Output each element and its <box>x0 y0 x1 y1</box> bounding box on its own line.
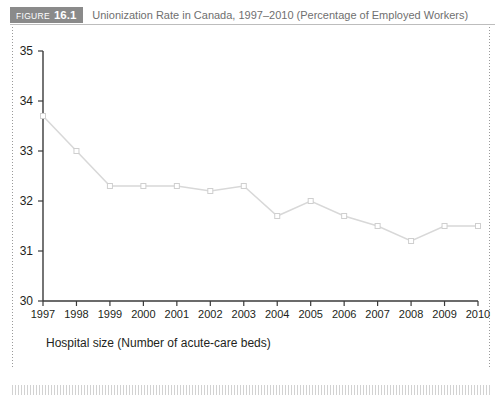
figure-number-badge: FIGURE 16.1 <box>10 7 83 23</box>
figure-word-label: FIGURE <box>16 8 50 24</box>
data-point-marker <box>241 184 246 189</box>
header-divider <box>10 24 495 25</box>
data-point-marker <box>275 214 280 219</box>
data-point-marker <box>174 184 179 189</box>
data-point-marker <box>141 184 146 189</box>
data-point-marker <box>409 239 414 244</box>
data-point-marker <box>375 224 380 229</box>
data-point-marker <box>342 214 347 219</box>
y-axis-tick-label: 33 <box>9 145 33 157</box>
y-axis-tick-label: 35 <box>9 45 33 57</box>
y-axis-tick-label: 31 <box>9 245 33 257</box>
data-point-marker <box>107 184 112 189</box>
x-axis-tick-label: 2010 <box>458 308 498 320</box>
y-axis-tick-label: 32 <box>9 195 33 207</box>
data-point-marker <box>74 149 79 154</box>
data-point-marker <box>308 199 313 204</box>
data-point-marker <box>476 224 481 229</box>
figure-title: Unionization Rate in Canada, 1997–2010 (… <box>83 7 468 23</box>
data-point-marker <box>41 114 46 119</box>
line-chart: 303132333435 199719981999200020012002200… <box>0 28 502 348</box>
data-point-marker <box>442 224 447 229</box>
figure-header: FIGURE 16.1 Unionization Rate in Canada,… <box>10 7 495 23</box>
y-axis-tick-label: 34 <box>9 95 33 107</box>
y-axis-tick-label: 30 <box>9 295 33 307</box>
x-axis-caption: Hospital size (Number of acute-care beds… <box>46 336 271 350</box>
data-point-marker <box>208 189 213 194</box>
figure-number-label: 16.1 <box>54 7 76 23</box>
frame-footer-bar <box>12 385 490 395</box>
chart-canvas <box>0 28 502 348</box>
